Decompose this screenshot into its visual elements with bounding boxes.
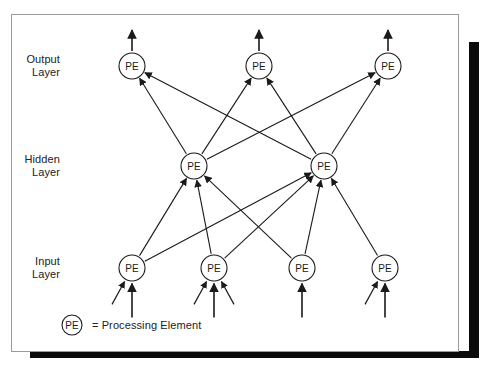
edge-h1-o2 (202, 78, 251, 154)
node-label-i1: PE (125, 263, 139, 274)
node-h1: PE (181, 153, 207, 179)
node-label-h2: PE (317, 161, 331, 172)
legend: PE = Processing Element (58, 314, 201, 336)
external-input-arrow-i2-1 (221, 282, 234, 305)
node-label-o3: PE (381, 61, 395, 72)
edge-h2-o1 (145, 73, 311, 160)
node-i3: PE (289, 255, 315, 281)
node-label-i3: PE (295, 263, 309, 274)
edge-i2-h1 (197, 180, 211, 254)
layer-label-hidden: Hidden Layer (5, 153, 60, 179)
layer-label-output: Output Layer (5, 53, 60, 79)
legend-pe-icon: PE (58, 314, 86, 336)
edges-group (140, 73, 381, 262)
external-input-arrow-i2-2 (194, 282, 207, 305)
edge-i4-h2 (331, 178, 377, 255)
node-i4: PE (372, 255, 398, 281)
external-input-arrow-i1-1 (112, 282, 125, 305)
node-label-i4: PE (378, 263, 392, 274)
layer-label-input: Input Layer (5, 255, 60, 281)
node-label-o1: PE (125, 61, 139, 72)
node-i1: PE (119, 255, 145, 281)
node-i2: PE (201, 255, 227, 281)
nodes-group: PEPEPEPEPEPEPEPEPE (119, 53, 401, 281)
node-label-o2: PE (252, 61, 266, 72)
node-o3: PE (375, 53, 401, 79)
edge-h2-o3 (332, 78, 380, 154)
edge-i2-h2 (225, 176, 314, 258)
node-label-i2: PE (207, 263, 221, 274)
edge-i3-h2 (305, 180, 321, 254)
node-o2: PE (246, 53, 272, 79)
edge-i1-h2 (145, 173, 311, 261)
edge-h1-o1 (140, 78, 187, 153)
node-h2: PE (311, 153, 337, 179)
svg-text:PE: PE (65, 320, 79, 331)
edge-i1-h1 (140, 178, 187, 255)
node-o1: PE (119, 53, 145, 79)
node-label-h1: PE (187, 161, 201, 172)
figure-canvas: PEPEPEPEPEPEPEPEPE Output Layer Hidden L… (0, 0, 485, 369)
legend-text: = Processing Element (92, 319, 201, 331)
external-input-arrow-i4-1 (365, 282, 378, 305)
edge-h2-o2 (267, 78, 316, 154)
edge-i3-h1 (205, 176, 292, 258)
